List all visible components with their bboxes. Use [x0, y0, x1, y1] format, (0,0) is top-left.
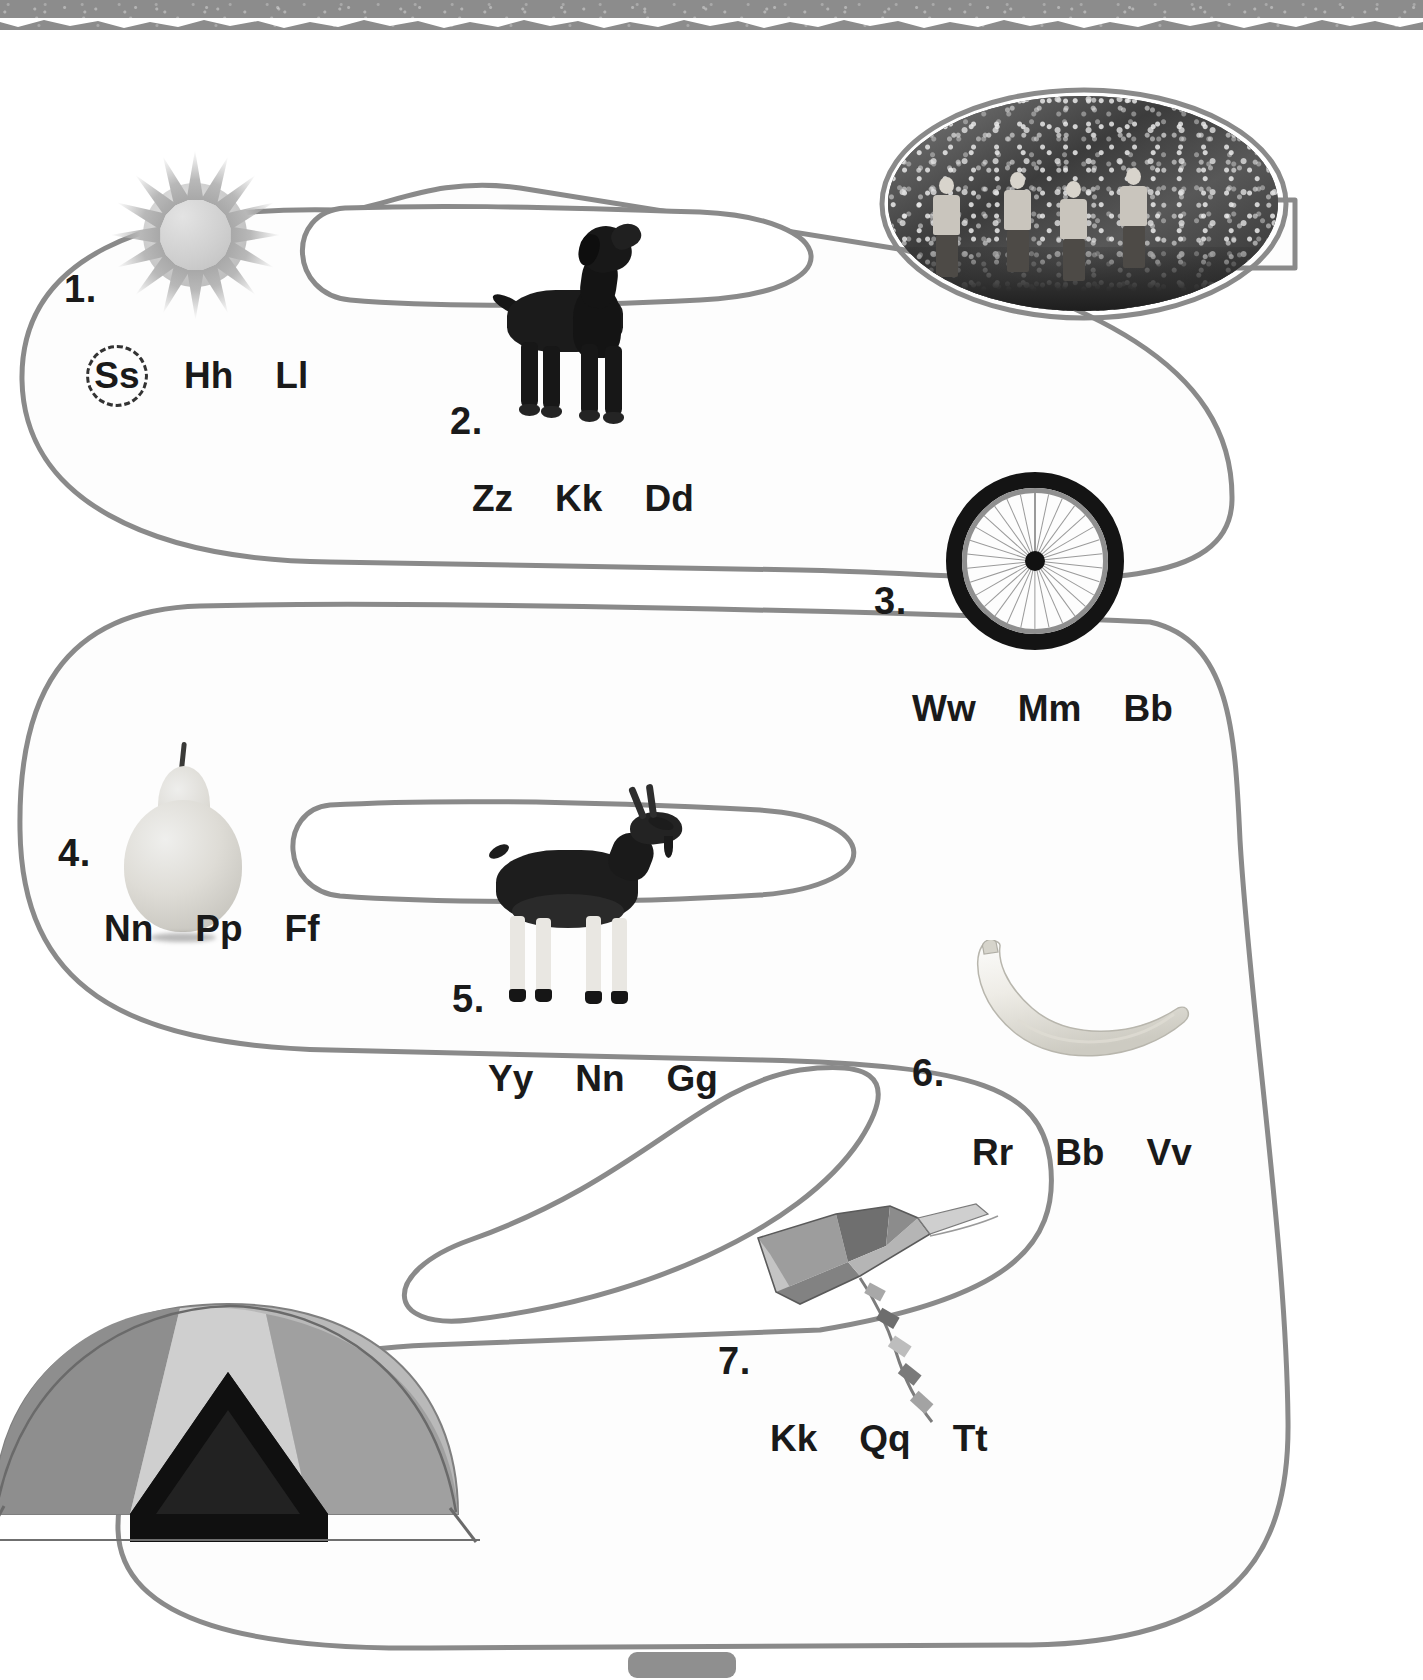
choice-2-2[interactable]: Kk — [549, 478, 608, 520]
choices-row-4: Nn Pp Ff — [98, 908, 326, 950]
item-number-6: 6. — [912, 1052, 945, 1095]
choices-row-7: Kk Qq Tt — [764, 1418, 994, 1460]
choice-5-2[interactable]: Nn — [569, 1058, 630, 1100]
choice-7-1[interactable]: Kk — [764, 1418, 823, 1460]
page-bottom-tab — [628, 1652, 736, 1678]
picture-wheel — [946, 472, 1124, 650]
choice-5-3[interactable]: Gg — [661, 1058, 724, 1100]
picture-tent — [0, 1222, 500, 1566]
choices-row-2: Zz Kk Dd — [466, 478, 700, 520]
picture-kite — [740, 1200, 1000, 1444]
tent-illustration — [0, 1222, 500, 1562]
item-number-5: 5. — [452, 978, 485, 1021]
choices-row-6: Rr Bb Vv — [966, 1132, 1198, 1174]
picture-goat — [478, 788, 688, 1023]
choice-4-1[interactable]: Nn — [98, 908, 159, 950]
item-number-7: 7. — [718, 1340, 751, 1383]
choice-3-3[interactable]: Bb — [1117, 688, 1178, 730]
choices-row-3: Ww Mm Bb — [906, 688, 1179, 730]
choice-4-3[interactable]: Ff — [279, 908, 326, 950]
bicycle-wheel-illustration — [946, 472, 1124, 650]
choice-7-3[interactable]: Tt — [947, 1418, 994, 1460]
choice-6-1[interactable]: Rr — [966, 1132, 1019, 1174]
choice-7-2[interactable]: Qq — [853, 1418, 916, 1460]
choice-6-2[interactable]: Bb — [1049, 1132, 1110, 1174]
choice-5-1[interactable]: Yy — [482, 1058, 539, 1100]
wheel-hub — [1025, 551, 1045, 571]
dog-illustration — [485, 212, 655, 427]
choice-1-3[interactable]: Ll — [269, 355, 314, 397]
picture-sun — [110, 150, 280, 320]
item-number-3: 3. — [874, 580, 907, 623]
choices-row-5: Yy Nn Gg — [482, 1058, 724, 1100]
choice-1-1[interactable]: Ss — [86, 345, 148, 407]
sun-illustration — [110, 150, 280, 320]
goat-illustration — [478, 788, 688, 1023]
worksheet-page: 1. Ss Hh Ll 2. Zz Kk Dd — [0, 0, 1423, 1680]
picture-banana — [952, 940, 1202, 1084]
choice-6-3[interactable]: Vv — [1140, 1132, 1197, 1174]
photo-oval-frame — [878, 86, 1290, 322]
choice-2-3[interactable]: Dd — [638, 478, 699, 520]
item-number-4: 4. — [58, 832, 91, 875]
choice-3-2[interactable]: Mm — [1012, 688, 1088, 730]
choice-2-1[interactable]: Zz — [466, 478, 519, 520]
kite-illustration — [740, 1200, 1000, 1440]
item-number-2: 2. — [450, 400, 483, 443]
banana-illustration — [952, 940, 1202, 1080]
item-number-1: 1. — [64, 268, 97, 311]
choice-4-2[interactable]: Pp — [189, 908, 248, 950]
choice-3-1[interactable]: Ww — [906, 688, 982, 730]
picture-dog — [485, 212, 655, 427]
choices-row-1: Ss Hh Ll — [86, 345, 314, 407]
choice-1-2[interactable]: Hh — [178, 355, 239, 397]
